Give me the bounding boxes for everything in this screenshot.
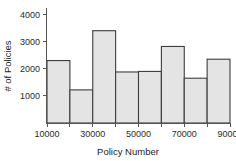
y-axis-title: # of Policies [2, 40, 13, 91]
histogram-bar [207, 59, 230, 123]
y-tick-label: 4000 [20, 10, 40, 20]
histogram-bar [116, 72, 139, 123]
histogram-bar [47, 61, 70, 123]
histogram-bar [70, 90, 93, 123]
x-tick-label: 70000 [172, 129, 197, 139]
chart-canvas: 1000200030004000 10000300005000070000900… [0, 0, 236, 161]
histogram-bar [139, 71, 162, 123]
x-tick-label: 10000 [34, 129, 59, 139]
y-tick-label: 2000 [20, 64, 40, 74]
histogram-bar [184, 78, 207, 123]
histogram-bar [161, 46, 184, 123]
x-tick-label: 30000 [80, 129, 105, 139]
y-tick-label: 3000 [20, 37, 40, 47]
y-tick-label: 1000 [20, 91, 40, 101]
x-axis-title: Policy Number [97, 146, 159, 157]
x-tick-label: 90000 [217, 129, 236, 139]
x-tick-label: 50000 [126, 129, 151, 139]
histogram-bar [93, 31, 116, 123]
histogram-chart: 1000200030004000 10000300005000070000900… [0, 0, 236, 161]
